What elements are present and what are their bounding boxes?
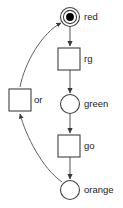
arc-or-to-red bbox=[20, 23, 61, 87]
transition-go-box bbox=[58, 135, 80, 157]
place-green-label: green bbox=[84, 98, 108, 109]
arc-orange-to-or bbox=[20, 114, 62, 182]
place-green-ring bbox=[61, 95, 80, 114]
transition-go[interactable]: go bbox=[58, 135, 95, 157]
transition-or-box bbox=[9, 89, 31, 111]
petri-net-diagram: red rg green go orange or bbox=[0, 0, 123, 208]
place-orange-label: orange bbox=[84, 184, 114, 195]
petri-net-canvas: red rg green go orange or bbox=[0, 0, 123, 208]
place-green[interactable]: green bbox=[61, 95, 109, 114]
transition-or[interactable]: or bbox=[9, 89, 42, 111]
place-orange-ring bbox=[61, 181, 80, 200]
transition-go-label: go bbox=[84, 140, 95, 151]
transition-or-label: or bbox=[34, 94, 42, 105]
transition-rg-label: rg bbox=[84, 53, 92, 64]
place-red-label: red bbox=[84, 11, 98, 22]
transition-rg[interactable]: rg bbox=[58, 48, 92, 70]
place-red[interactable]: red bbox=[61, 8, 98, 27]
place-red-token bbox=[66, 13, 74, 21]
place-orange[interactable]: orange bbox=[61, 181, 114, 200]
transition-rg-box bbox=[58, 48, 80, 70]
